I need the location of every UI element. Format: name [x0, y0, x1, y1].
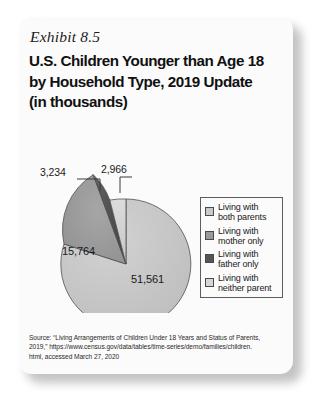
exhibit-number-label: Exhibit 8.5 — [30, 28, 100, 46]
legend-label-line: Living with — [218, 273, 271, 283]
legend-label-line: both parents — [218, 212, 266, 222]
pie-value-label-mother-only: 15,764 — [62, 245, 95, 257]
chart-title-line-3: (in thousands) — [29, 92, 287, 113]
page-background: Exhibit 8.5 U.S. Children Younger than A… — [0, 0, 319, 394]
legend-item-mother-only: Living with mother only — [205, 226, 279, 247]
legend-label-line: Living with — [218, 226, 263, 236]
legend-label-mother-only: Living with mother only — [218, 226, 263, 247]
source-note-line-1: Source: “Living Arrangements of Children… — [29, 333, 281, 342]
pie-value-label-father-only: 3,234 — [40, 166, 66, 178]
legend-label-line: Living with — [218, 249, 258, 259]
pie-value-label-both-parents: 51,561 — [131, 273, 164, 285]
legend-label-father-only: Living with father only — [218, 249, 258, 270]
leader-line-neither-parent — [120, 177, 132, 193]
chart-title-line-1: U.S. Children Younger than Age 18 — [29, 51, 287, 72]
legend-label-both-parents: Living with both parents — [218, 202, 266, 223]
pie-value-label-neither-parent: 2,966 — [101, 163, 127, 175]
legend-swatch-both-parents — [205, 207, 214, 216]
legend-swatch-mother-only — [205, 231, 214, 240]
legend-label-line: neither parent — [218, 283, 271, 293]
legend-swatch-neither-parent — [205, 278, 214, 287]
chart-title-line-2: by Household Type, 2019 Update — [29, 72, 287, 93]
chart-title: U.S. Children Younger than Age 18 by Hou… — [29, 51, 287, 113]
legend-label-neither-parent: Living with neither parent — [218, 273, 271, 294]
legend-label-line: mother only — [218, 236, 263, 246]
legend-label-line: father only — [218, 259, 258, 269]
source-note-line-3: html, accessed March 27, 2020 — [29, 352, 281, 361]
chart-legend: Living with both parents Living with mot… — [200, 197, 283, 298]
legend-item-neither-parent: Living with neither parent — [205, 273, 279, 294]
exhibit-card: Exhibit 8.5 U.S. Children Younger than A… — [19, 17, 293, 374]
source-note-line-2: 2019,” https://www.census.gov/data/table… — [29, 342, 281, 351]
legend-item-father-only: Living with father only — [205, 249, 279, 270]
legend-item-both-parents: Living with both parents — [205, 202, 279, 223]
pie-chart: 3,234 2,966 15,764 51,561 — [28, 153, 208, 313]
source-note: Source: “Living Arrangements of Children… — [29, 333, 281, 361]
legend-label-line: Living with — [218, 202, 266, 212]
legend-swatch-father-only — [205, 254, 214, 263]
